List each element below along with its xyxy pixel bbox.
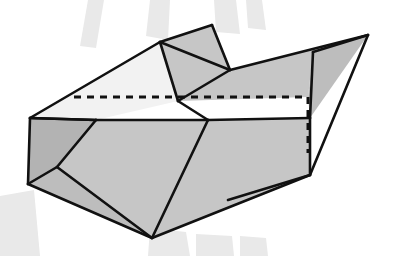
polyhedron-figure xyxy=(0,0,395,256)
band-top-mid xyxy=(146,0,170,40)
band-bottom-right xyxy=(196,234,234,256)
band-bottom-far xyxy=(240,236,268,256)
band-bottom-left xyxy=(0,190,40,256)
figure-canvas xyxy=(0,0,395,256)
band-top-right xyxy=(214,0,240,34)
